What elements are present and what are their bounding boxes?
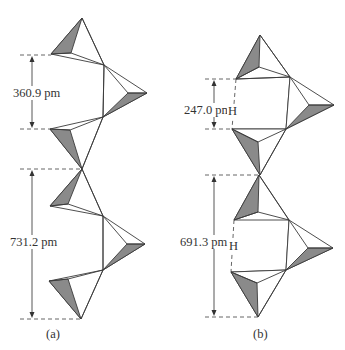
- tetrahedron: [49, 270, 103, 319]
- tetrahedron: [236, 35, 290, 79]
- dimension-label-b-top: 247.0 pm: [184, 103, 231, 117]
- figure-canvas: 360.9 pm 731.2 pm (a) 247.0 pm H 691.3 p…: [0, 0, 345, 350]
- tetrahedron: [51, 18, 104, 65]
- tetrahedron: [232, 129, 286, 175]
- dimension-label-a-top: 360.9 pm: [13, 86, 60, 100]
- panel-b-chain: [231, 35, 334, 317]
- tetrahedron: [234, 175, 289, 220]
- panel-a-caption: (a): [46, 327, 60, 342]
- tetrahedron: [50, 169, 103, 216]
- tetrahedron: [231, 270, 286, 317]
- dimension-label-b-bottom: 691.3 pm: [180, 235, 227, 249]
- panel-a-chain: [49, 18, 147, 319]
- hydrogen-label-b-top: H: [227, 104, 238, 118]
- hydrogen-label-b-bottom: H: [228, 239, 239, 253]
- tetrahedron: [103, 65, 147, 117]
- panel-b-caption: (b): [253, 327, 268, 342]
- tetrahedron: [50, 117, 103, 169]
- dimension-label-a-bottom: 731.2 pm: [10, 235, 57, 249]
- tetrahedron: [286, 77, 334, 129]
- tetrahedron: [286, 220, 333, 270]
- polyhedra-diagram: [0, 0, 345, 350]
- tetrahedron: [103, 216, 145, 270]
